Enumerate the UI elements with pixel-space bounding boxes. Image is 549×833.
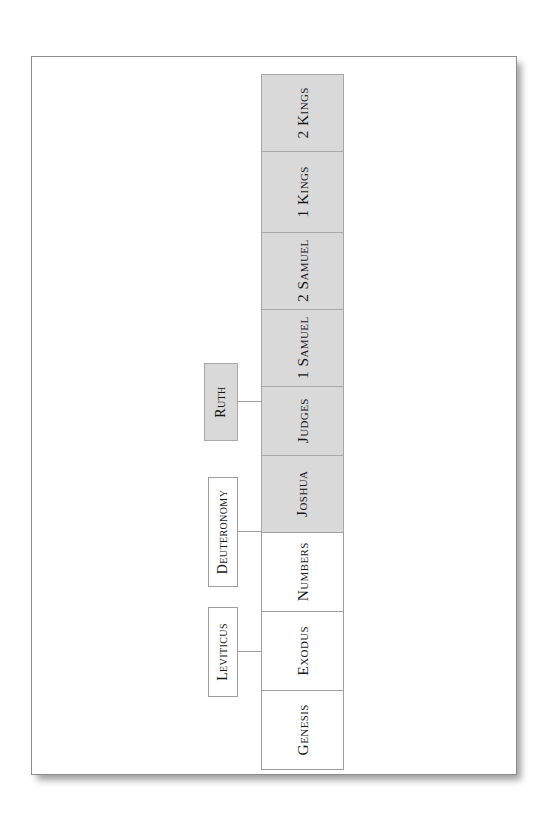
branch-box-leviticus[interactable]: Leviticus bbox=[208, 607, 238, 697]
chain-box-2-samuel[interactable]: 2 Samuel bbox=[261, 232, 344, 310]
chain-box-label: Numbers bbox=[295, 542, 311, 601]
branch-box-deuteronomy[interactable]: Deuteronomy bbox=[208, 477, 238, 587]
chain-box-label: Joshua bbox=[295, 471, 311, 517]
branch-box-label: Deuteronomy bbox=[216, 490, 230, 575]
chain-box-judges[interactable]: Judges bbox=[261, 386, 344, 456]
connector-ruth-to-judges bbox=[238, 401, 262, 402]
chain-box-label: 1 Kings bbox=[295, 166, 311, 217]
chain-box-1-kings[interactable]: 1 Kings bbox=[261, 151, 344, 233]
chain-box-1-samuel[interactable]: 1 Samuel bbox=[261, 309, 344, 387]
chain-box-label: Exodus bbox=[295, 626, 311, 676]
connector-deuteronomy-to-numbers bbox=[238, 531, 262, 532]
branch-box-label: Leviticus bbox=[216, 623, 230, 681]
chain-box-joshua[interactable]: Joshua bbox=[261, 455, 344, 533]
page-sheet: 2 Kings 1 Kings 2 Samuel 1 Samuel Judges… bbox=[31, 56, 517, 775]
chain-box-label: 2 Kings bbox=[295, 87, 311, 138]
connector-leviticus-to-exodus bbox=[238, 651, 262, 652]
chain-box-numbers[interactable]: Numbers bbox=[261, 532, 344, 612]
chain-box-label: 2 Samuel bbox=[295, 240, 311, 303]
chain-box-label: Judges bbox=[295, 398, 311, 443]
chain-box-label: 1 Samuel bbox=[295, 317, 311, 380]
branch-box-ruth[interactable]: Ruth bbox=[204, 363, 238, 441]
chain-box-label: Genesis bbox=[295, 704, 311, 755]
branch-box-label: Ruth bbox=[214, 386, 228, 418]
main-chain: 2 Kings 1 Kings 2 Samuel 1 Samuel Judges… bbox=[261, 75, 344, 770]
chain-diagram: 2 Kings 1 Kings 2 Samuel 1 Samuel Judges… bbox=[32, 57, 518, 776]
chain-box-2-kings[interactable]: 2 Kings bbox=[261, 74, 344, 152]
chain-box-genesis[interactable]: Genesis bbox=[261, 690, 344, 770]
chain-box-exodus[interactable]: Exodus bbox=[261, 611, 344, 691]
